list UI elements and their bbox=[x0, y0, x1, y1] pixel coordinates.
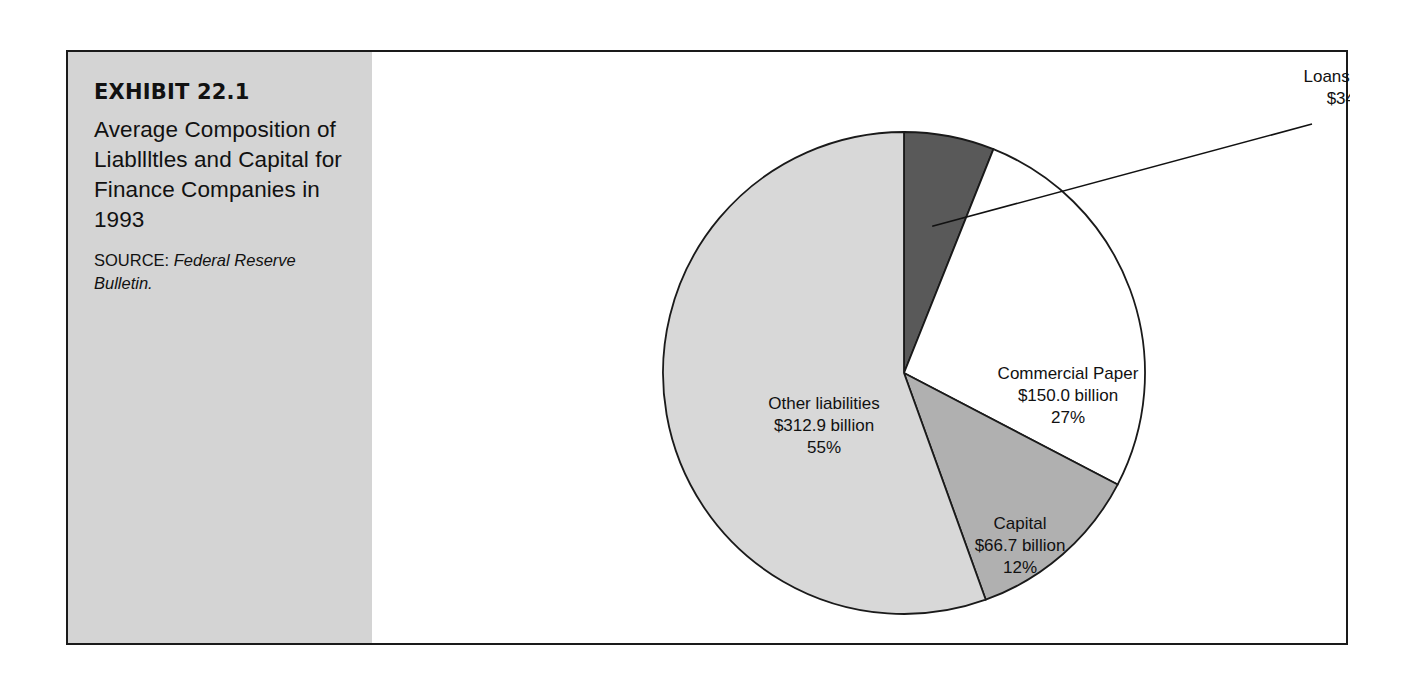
exhibit-title: Average Composition of Liabllltles and C… bbox=[94, 115, 350, 235]
exhibit-source: SOURCE: Federal Reserve Bulletin. bbox=[94, 249, 350, 295]
source-label: SOURCE: bbox=[94, 251, 174, 269]
exhibit-frame: EXHIBIT 22.1 Average Composition of Liab… bbox=[66, 50, 1348, 645]
caption-panel: EXHIBIT 22.1 Average Composition of Liab… bbox=[68, 52, 372, 643]
chart-area: Loans from Banks$34.1 billion6%Commercia… bbox=[372, 52, 1346, 643]
slice-label-loans-from-banks: Loans from Banks$34.1 billion6% bbox=[1303, 67, 1350, 130]
pie-chart: Loans from Banks$34.1 billion6%Commercia… bbox=[372, 52, 1350, 643]
exhibit-number: EXHIBIT 22.1 bbox=[94, 80, 350, 104]
